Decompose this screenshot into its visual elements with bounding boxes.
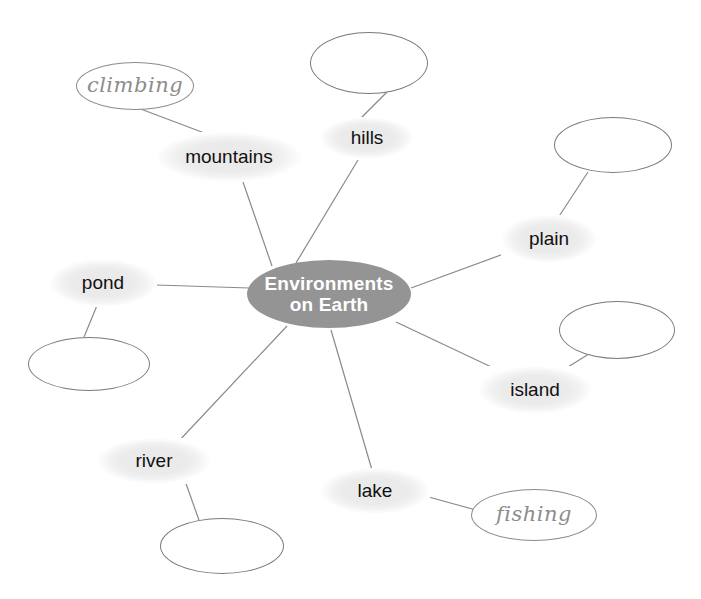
edge-lake-to-fishing xyxy=(425,496,476,510)
detail-node-climbing[interactable]: climbing xyxy=(76,62,194,110)
edge-hills-to-blank-hills xyxy=(360,92,387,119)
topic-node-pond[interactable]: pond xyxy=(49,259,157,307)
topic-node-mountains[interactable]: mountains xyxy=(156,132,302,182)
edge-plain-to-blank-plain xyxy=(556,172,588,221)
edge-center-to-hills xyxy=(296,160,358,263)
edge-river-to-blank-river xyxy=(184,478,200,523)
blank-oval-plain[interactable] xyxy=(554,117,672,173)
mind-map-canvas: Environments on Earthmountainshillsplain… xyxy=(0,0,701,599)
topic-node-island[interactable]: island xyxy=(478,366,592,414)
blank-oval-hills[interactable] xyxy=(310,32,428,94)
topic-node-river[interactable]: river xyxy=(97,438,211,484)
edge-pond-to-blank-pond xyxy=(84,303,98,337)
center-node[interactable]: Environments on Earth xyxy=(247,260,411,328)
topic-node-hills[interactable]: hills xyxy=(320,117,414,159)
edge-center-to-river xyxy=(177,326,287,443)
edge-center-to-island xyxy=(396,322,502,372)
edge-center-to-lake xyxy=(331,330,372,470)
blank-oval-island[interactable] xyxy=(559,301,675,359)
topic-node-lake[interactable]: lake xyxy=(320,468,430,514)
blank-oval-pond[interactable] xyxy=(28,337,150,391)
detail-node-fishing[interactable]: fishing xyxy=(471,489,597,541)
topic-node-plain[interactable]: plain xyxy=(501,215,597,263)
edge-center-to-pond xyxy=(156,285,249,288)
edge-center-to-plain xyxy=(411,252,509,288)
edge-center-to-mountains xyxy=(243,182,272,266)
blank-oval-river[interactable] xyxy=(160,518,284,574)
